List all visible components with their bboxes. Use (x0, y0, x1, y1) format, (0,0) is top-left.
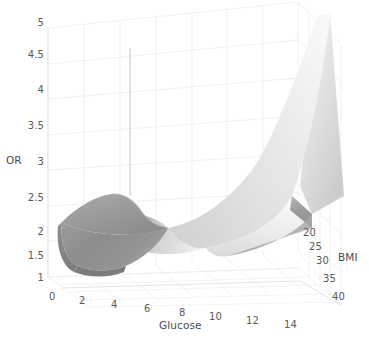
z-tick-label: 1.5 (18, 250, 44, 261)
x-tick-label: 10 (209, 311, 222, 322)
y-tick-label: 35 (323, 273, 336, 284)
x-tick-label: 8 (179, 307, 185, 318)
z-tick-label: 1 (24, 272, 44, 283)
z-tick-label: 3 (24, 156, 44, 167)
x-tick-label: 4 (111, 299, 117, 310)
z-tick-label: 3.5 (18, 120, 44, 131)
y-tick-label: 25 (309, 241, 322, 252)
x-tick-label: 14 (284, 319, 297, 330)
z-tick-label: 2.5 (18, 192, 44, 203)
x-axis-line (62, 281, 300, 288)
z-tick-label: 4.5 (18, 49, 44, 60)
y-tick-label: 30 (316, 255, 329, 266)
z-axis-title: OR (6, 155, 22, 166)
y-tick-label: 40 (332, 291, 345, 302)
x-axis-title: Glucose (159, 320, 202, 331)
z-tick-label: 4 (24, 84, 44, 95)
x-tick-label: 6 (144, 303, 150, 314)
x-tick-label: 2 (79, 295, 85, 306)
x-tick-label: 12 (246, 315, 259, 326)
z-tick-label: 2 (24, 226, 44, 237)
y-tick-label: 20 (303, 227, 316, 238)
surface-mesh (58, 12, 344, 277)
x-tick-label: 0 (49, 291, 55, 302)
z-tick-label: 5 (24, 17, 44, 28)
surface-plot-figure: 5 4.5 4 3.5 3 2.5 2 1.5 1 OR 0 2 4 6 8 1… (0, 0, 369, 343)
y-axis-title: BMI (338, 252, 358, 263)
